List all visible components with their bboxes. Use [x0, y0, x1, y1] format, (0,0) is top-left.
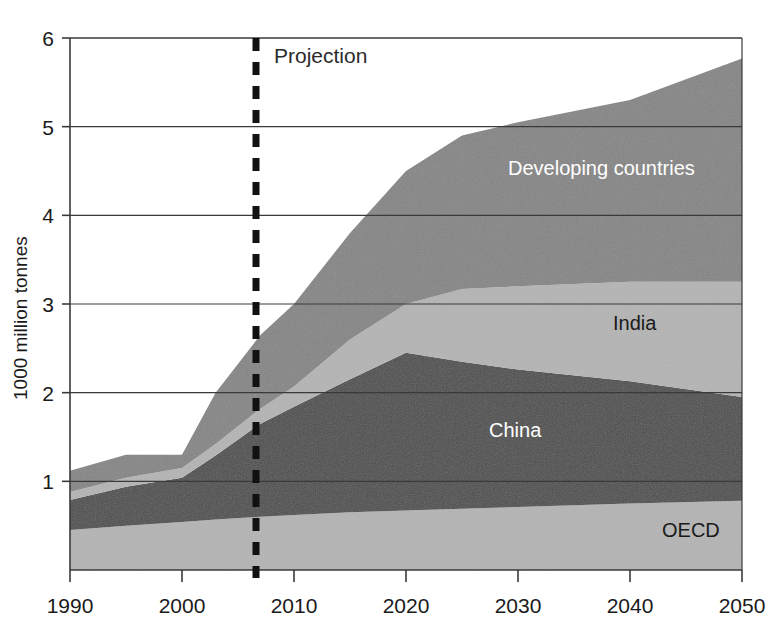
y-tick-label-2: 2 — [42, 382, 54, 405]
x-tick-label-2050: 2050 — [719, 594, 766, 617]
chart-container: 1990200020102020203020402050 123456 Proj… — [0, 0, 777, 635]
y-tick-label-1: 1 — [42, 470, 54, 493]
x-tick-label-2030: 2030 — [495, 594, 542, 617]
series-label-oecd: OECD — [662, 519, 720, 541]
x-tick-label-2020: 2020 — [383, 594, 430, 617]
series-label-india: India — [613, 312, 657, 334]
y-tick-label-6: 6 — [42, 27, 54, 50]
y-axis-title: 1000 million tonnes — [10, 236, 31, 400]
y-tick-group: 123456 — [42, 27, 70, 493]
series-label-developing: Developing countries — [508, 157, 695, 179]
y-tick-label-5: 5 — [42, 116, 54, 139]
x-tick-label-2040: 2040 — [607, 594, 654, 617]
projection-label: Projection — [274, 44, 367, 67]
y-tick-label-3: 3 — [42, 293, 54, 316]
x-tick-label-2000: 2000 — [159, 594, 206, 617]
series-label-china: China — [489, 419, 542, 441]
x-tick-label-2010: 2010 — [271, 594, 318, 617]
x-tick-label-1990: 1990 — [47, 594, 94, 617]
x-tick-group: 1990200020102020203020402050 — [47, 570, 766, 617]
y-tick-label-4: 4 — [42, 204, 54, 227]
stacked-area-chart: 1990200020102020203020402050 123456 Proj… — [0, 0, 777, 635]
